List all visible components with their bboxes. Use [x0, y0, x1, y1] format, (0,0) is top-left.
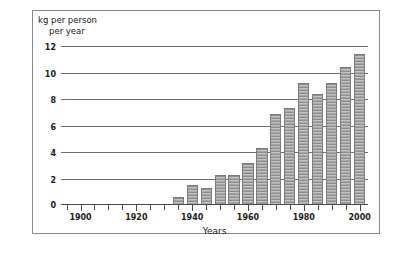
x-axis-tick — [276, 205, 277, 210]
x-axis-tick — [192, 205, 193, 211]
bar — [298, 83, 309, 205]
bar — [270, 114, 281, 205]
x-axis-tick — [81, 205, 82, 211]
x-axis-line — [61, 204, 368, 205]
bar — [187, 185, 198, 205]
y-axis-tick-label: 6 — [50, 122, 56, 131]
x-axis-tick — [234, 205, 235, 210]
x-axis-tick — [332, 205, 333, 210]
plot-area: 246810120 190019201940196019802000 — [61, 46, 368, 205]
x-axis-tick — [290, 205, 291, 210]
x-axis-title: Years — [61, 226, 368, 236]
y-axis-title: kg per person per year — [38, 15, 97, 37]
x-axis-tick — [108, 205, 109, 210]
x-axis-tick — [178, 205, 179, 210]
x-axis-tick — [304, 205, 305, 211]
y-axis-tick-label: 4 — [50, 149, 56, 158]
x-axis-tick — [164, 205, 165, 210]
x-axis-tick-label: 1960 — [237, 213, 259, 222]
x-axis-tick — [67, 205, 68, 210]
y-axis-tick-label: 10 — [45, 69, 56, 78]
bar — [326, 83, 337, 205]
bar — [201, 188, 212, 205]
x-axis-tick — [206, 205, 207, 210]
bar-chart-figure: kg per person per year 246810120 1900192… — [0, 0, 394, 255]
y-axis-title-line2: per year — [38, 26, 97, 37]
bar — [256, 148, 267, 205]
x-axis-tick — [94, 205, 95, 210]
x-axis-tick-label: 2000 — [348, 213, 370, 222]
x-axis-tick — [136, 205, 137, 211]
y-axis-tick-label: 12 — [45, 43, 56, 52]
gridline: 12 — [61, 46, 368, 47]
x-axis-tick — [248, 205, 249, 211]
x-axis-tick — [122, 205, 123, 210]
bar — [228, 175, 239, 205]
bar — [284, 108, 295, 205]
x-axis-tick-label: 1980 — [293, 213, 315, 222]
x-axis-tick — [346, 205, 347, 210]
x-axis-tick — [262, 205, 263, 210]
x-axis-tick-label: 1920 — [125, 213, 147, 222]
x-axis-tick-label: 1900 — [69, 213, 91, 222]
bar — [312, 94, 323, 205]
y-axis-tick-label: 8 — [50, 96, 56, 105]
y-axis-title-line1: kg per person — [38, 15, 97, 25]
y-axis-tick-label: 0 — [50, 201, 56, 210]
x-axis-tick — [220, 205, 221, 210]
x-axis-tick-label: 1940 — [181, 213, 203, 222]
bar — [242, 163, 253, 205]
gridline: 10 — [61, 73, 368, 74]
x-axis-tick — [318, 205, 319, 210]
bar — [215, 175, 226, 205]
bar — [340, 67, 351, 205]
y-axis-tick-label: 2 — [50, 175, 56, 184]
x-axis-tick — [360, 205, 361, 211]
bar — [354, 54, 365, 205]
x-axis-tick — [150, 205, 151, 210]
